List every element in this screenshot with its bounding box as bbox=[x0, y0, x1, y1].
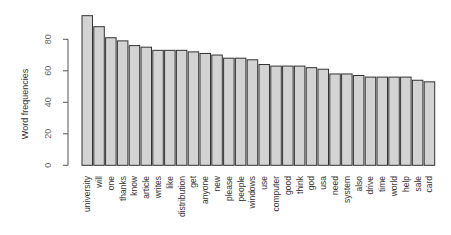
bar-usa bbox=[318, 69, 329, 165]
x-tick-label: god bbox=[306, 176, 316, 190]
x-tick-label: computer bbox=[271, 176, 281, 212]
bar-world bbox=[389, 77, 400, 165]
y-tick-label: 60 bbox=[43, 66, 53, 76]
y-tick-label: 20 bbox=[43, 129, 53, 139]
bar-good bbox=[283, 66, 294, 165]
bar-computer bbox=[271, 66, 282, 165]
x-tick-label: sale bbox=[413, 176, 423, 192]
y-tick-label: 40 bbox=[43, 97, 53, 107]
x-tick-label: anyone bbox=[200, 176, 210, 204]
bar-thanks bbox=[117, 41, 128, 165]
x-tick-label: like bbox=[165, 176, 175, 189]
x-tick-label: new bbox=[212, 175, 222, 191]
x-tick-label: usa bbox=[318, 176, 328, 190]
bar-also bbox=[353, 76, 364, 166]
bar-use bbox=[259, 65, 270, 166]
bar-one bbox=[106, 38, 117, 166]
y-axis-label: Word frequencies bbox=[20, 68, 30, 139]
x-tick-label: thanks bbox=[118, 176, 128, 201]
x-tick-label: help bbox=[401, 176, 411, 192]
x-tick-label: card bbox=[424, 176, 434, 193]
bar-get bbox=[188, 52, 199, 165]
bar-will bbox=[94, 27, 105, 166]
x-tick-label: will bbox=[94, 176, 104, 189]
x-tick-label: university bbox=[82, 175, 92, 212]
x-tick-label: think bbox=[295, 175, 305, 194]
bar-god bbox=[306, 68, 317, 166]
x-tick-label: use bbox=[259, 176, 269, 190]
bar-help bbox=[401, 77, 412, 165]
x-tick-label: good bbox=[283, 176, 293, 195]
bar-article bbox=[141, 47, 152, 165]
x-axis-labels: universitywillonethanksknowarticlewrites… bbox=[82, 175, 434, 217]
bar-writes bbox=[153, 50, 164, 165]
x-tick-label: know bbox=[129, 175, 139, 196]
bar-system bbox=[342, 74, 353, 165]
bar-sale bbox=[412, 80, 423, 165]
bar-distribution bbox=[176, 50, 187, 165]
x-tick-label: get bbox=[188, 175, 198, 187]
y-axis: 020406080 bbox=[43, 34, 68, 168]
bars bbox=[82, 16, 435, 166]
bar-please bbox=[224, 58, 235, 165]
bar-like bbox=[165, 50, 176, 165]
bar-anyone bbox=[200, 53, 211, 165]
bar-know bbox=[129, 46, 140, 166]
x-tick-label: drive bbox=[365, 176, 375, 195]
x-tick-label: world bbox=[389, 176, 399, 198]
bar-chart: 020406080 universitywillonethanksknowart… bbox=[0, 0, 451, 235]
x-tick-label: time bbox=[377, 176, 387, 192]
bar-windows bbox=[247, 60, 258, 166]
y-tick-label: 80 bbox=[43, 34, 53, 44]
x-tick-label: please bbox=[224, 176, 234, 201]
bar-time bbox=[377, 77, 388, 165]
x-tick-label: also bbox=[354, 176, 364, 192]
x-tick-label: need bbox=[330, 176, 340, 195]
x-tick-label: distribution bbox=[177, 176, 187, 217]
bar-think bbox=[294, 66, 305, 165]
x-tick-label: writes bbox=[153, 176, 163, 199]
bar-need bbox=[330, 74, 341, 165]
bar-people bbox=[235, 58, 246, 165]
bar-new bbox=[212, 55, 223, 165]
x-tick-label: article bbox=[141, 176, 151, 199]
bar-drive bbox=[365, 77, 376, 165]
x-tick-label: windows bbox=[247, 176, 257, 210]
x-tick-label: one bbox=[106, 176, 116, 190]
y-tick-label: 0 bbox=[43, 163, 53, 168]
x-tick-label: system bbox=[342, 176, 352, 203]
bar-card bbox=[424, 82, 435, 165]
bar-university bbox=[82, 16, 93, 166]
x-tick-label: people bbox=[236, 176, 246, 202]
